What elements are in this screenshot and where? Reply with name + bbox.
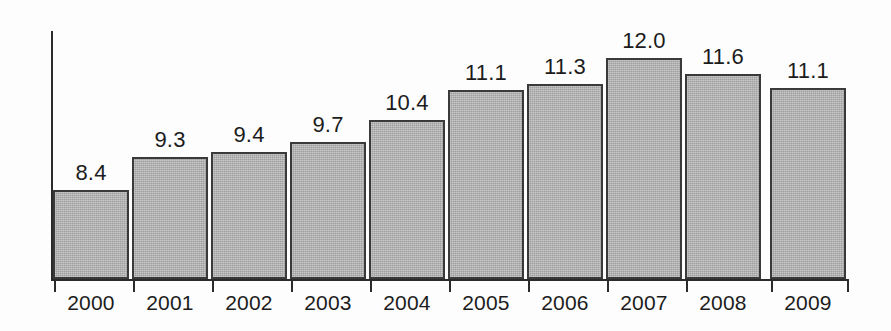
bar-2008 [685,74,761,279]
bar-2004 [369,120,445,279]
axis-tick-2008 [686,281,688,292]
axis-tick-2000 [54,281,56,292]
bar-2003 [290,142,366,279]
value-label-2006: 11.3 [513,56,617,78]
axis-tick-2006 [528,281,530,292]
axis-tick-2003 [291,281,293,292]
bar-2002 [211,152,287,279]
category-label-2009: 2009 [756,292,860,313]
bar-2006 [527,84,603,279]
bar-2007 [606,58,682,279]
value-label-2004: 10.4 [355,92,459,114]
bar-2005 [448,90,524,279]
value-label-2009: 11.1 [756,60,860,82]
value-label-2000: 8.4 [39,162,143,184]
value-label-2003: 9.7 [276,114,380,136]
bar-2000 [53,190,129,279]
axis-tick-2002 [212,281,214,292]
axis-tick-2001 [133,281,135,292]
axis-tick-2007 [607,281,609,292]
bar-2001 [132,157,208,279]
axis-tick-2005 [449,281,451,292]
plot-area: 8.49.39.49.710.411.111.312.011.611.1 200… [0,0,891,331]
axis-tick-end [847,281,849,292]
bar-chart: 8.49.39.49.710.411.111.312.011.611.1 200… [0,0,891,331]
bar-2009 [770,88,846,279]
axis-tick-2009 [771,281,773,292]
axis-tick-2004 [370,281,372,292]
